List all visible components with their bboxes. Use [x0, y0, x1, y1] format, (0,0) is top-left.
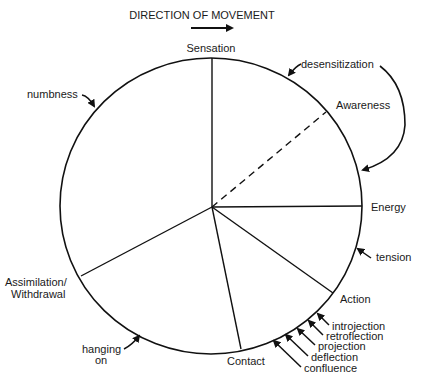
stage-label-sensation: Sensation: [187, 42, 236, 54]
label-numbness: numbness: [27, 88, 78, 100]
deflection-arrow-icon: [286, 335, 308, 356]
tension-arrow-icon: [358, 249, 371, 258]
label-tension: tension: [376, 251, 411, 263]
diagram-title: DIRECTION OF MOVEMENT: [129, 9, 275, 21]
spoke-energy: [212, 206, 362, 207]
stage-label-energy: Energy: [371, 201, 406, 213]
stage-label-assimilation-line1: Assimilation/: [5, 276, 68, 288]
label-on: on: [95, 354, 107, 366]
spoke-assimilation: [81, 207, 212, 276]
spoke-awareness: [212, 112, 326, 207]
stage-label-awareness: Awareness: [336, 99, 391, 111]
label-desensitization: desensitization: [301, 58, 374, 70]
numbness-arrow-icon: [82, 95, 94, 106]
spoke-contact: [212, 207, 241, 349]
introjection-arrow-icon: [318, 314, 329, 325]
stage-label-assimilation-line2: Withdrawal: [11, 288, 65, 300]
spoke-action: [212, 207, 333, 293]
hanging-on-arrow-icon: [124, 336, 139, 349]
desensitization-curve-arrow-icon: [363, 66, 405, 170]
desensitization-arrow-icon: [289, 64, 301, 75]
gestalt-cycle-diagram: DIRECTION OF MOVEMENT Sensation Awarenes…: [0, 0, 424, 385]
stage-label-action: Action: [340, 293, 371, 305]
retroflection-arrow-icon: [309, 321, 323, 335]
projection-arrow-icon: [298, 329, 315, 345]
stage-label-contact: Contact: [227, 355, 265, 367]
label-confluence: confluence: [304, 362, 357, 374]
